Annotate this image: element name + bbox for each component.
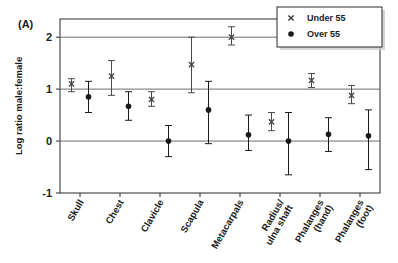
legend-label-2: Over 55	[307, 29, 340, 39]
filled-circle-marker	[326, 132, 332, 138]
filled-circle-marker	[86, 94, 92, 100]
x-axis-label-5: Metacarpals	[209, 198, 246, 251]
filled-circle-marker	[246, 132, 252, 138]
x-axis-label-6: Radius/ulna shaft	[254, 197, 295, 247]
data-point	[68, 79, 75, 92]
data-point	[348, 85, 355, 103]
y-tick-label-1: 1	[46, 83, 52, 95]
legend-label-1: Under 55	[307, 13, 346, 23]
data-point	[125, 92, 132, 121]
x-axis-label-4: Scapula	[178, 197, 206, 235]
x-axis-label-7: Phalanges(hand)	[292, 198, 334, 250]
x-axis-label-8: Phalanges(foot)	[332, 198, 374, 250]
data-point	[245, 115, 252, 150]
data-point	[85, 81, 92, 112]
y-tick-label--1: -1	[42, 187, 52, 199]
data-point	[308, 74, 315, 88]
filled-circle-marker	[126, 103, 132, 109]
data-point	[365, 110, 372, 170]
y-axis-title: Log ratio male:female	[13, 57, 24, 155]
x-axis-label-2: Chest	[103, 197, 126, 226]
data-point	[165, 125, 172, 156]
x-axis-label-1: Skull	[65, 198, 86, 223]
data-point	[325, 118, 332, 152]
y-tick-label-0: 0	[46, 135, 52, 147]
data-point	[188, 37, 195, 93]
series-2	[85, 81, 372, 174]
data-point	[228, 27, 235, 45]
filled-circle-marker	[166, 138, 172, 144]
data-point	[285, 112, 292, 174]
data-point	[205, 81, 212, 143]
data-point	[268, 112, 275, 130]
filled-circle-marker	[366, 133, 372, 139]
data-point	[148, 92, 155, 107]
scatter-plot-with-error-bars: (A)Log ratio male:female-1012SkullChestC…	[0, 0, 398, 263]
filled-circle-marker	[286, 138, 292, 144]
data-point	[108, 61, 115, 96]
panel-label: (A)	[18, 18, 34, 30]
filled-circle-marker	[288, 31, 294, 37]
y-tick-label-2: 2	[46, 31, 52, 43]
figure-panel-a: (A)Log ratio male:female-1012SkullChestC…	[0, 0, 398, 263]
filled-circle-marker	[206, 107, 212, 113]
x-axis-label-3: Clavicle	[138, 198, 165, 235]
